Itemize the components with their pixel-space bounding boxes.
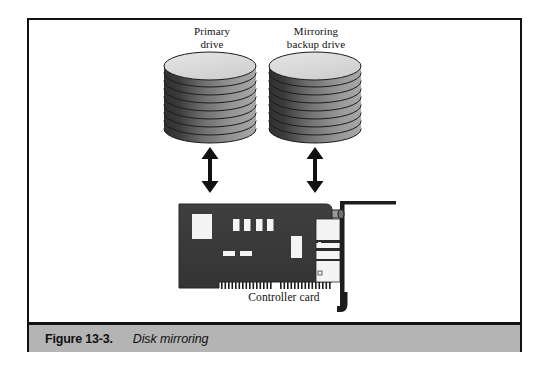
mirroring-backup-drive-label-line2: backup drive [261,38,371,51]
mirroring-backup-drive-label-line1: Mirroring [261,25,371,38]
tall-chip [291,236,302,258]
mirroring-backup-drive-label: Mirroring backup drive [261,25,371,50]
figure-caption-bar: Figure 13-3. Disk mirroring [29,322,520,352]
port-block [316,219,340,282]
link-primary-arrow [202,147,219,193]
large-chip [192,214,212,239]
edge-connector [221,282,331,289]
controller-card-label: Controller card [194,291,374,304]
primary-drive-label-line1: Primary [168,25,256,38]
small-chip-1 [233,219,240,231]
figure-caption-title: Disk mirroring [133,332,209,346]
figure-root: Primary drive Mirroring backup drive Con… [0,0,549,369]
primary-drive-label: Primary drive [168,25,256,50]
figure-caption-number: Figure 13-3. [45,332,113,346]
small-chip-2 [244,219,251,231]
diagram-illustration: Primary drive Mirroring backup drive Con… [29,20,520,320]
resistor-2 [240,251,252,256]
primary-drive-label-line2: drive [168,38,256,51]
figure-frame: Primary drive Mirroring backup drive Con… [27,18,522,352]
diagram-svg [29,20,520,320]
mirroring-backup-drive-stack [269,52,361,143]
link-mirror-arrow [307,147,324,193]
primary-drive-stack [164,52,256,143]
small-chip-4 [267,219,274,231]
resistor-1 [223,251,235,256]
small-chip-3 [256,219,263,231]
